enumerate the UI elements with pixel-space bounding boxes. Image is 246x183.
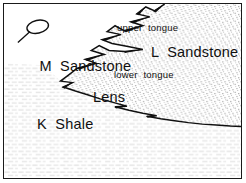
label-l-sandstone: L Sandstone xyxy=(151,45,238,60)
figure-frame-border: M Sandstone Lens L Sandstone K Shale upp… xyxy=(3,3,242,179)
label-upper-tongue: upper tongue xyxy=(117,23,178,33)
geologic-cross-section-figure: M Sandstone Lens L Sandstone K Shale upp… xyxy=(0,0,246,183)
label-lower-tongue: lower tongue xyxy=(114,70,174,80)
label-m-sandstone-line2: Lens xyxy=(14,90,131,105)
label-k-shale: K Shale xyxy=(37,117,93,132)
